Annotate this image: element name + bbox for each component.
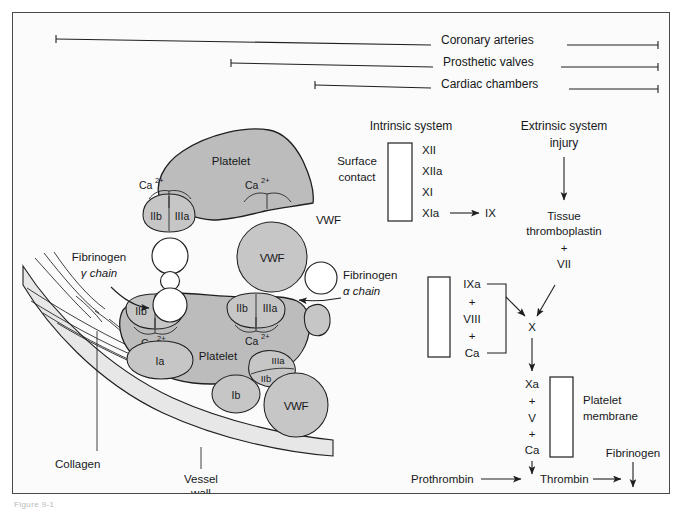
- prothrombinase-item-1: +: [529, 395, 536, 407]
- prothrombinase-item-3: +: [529, 428, 536, 440]
- tenase-membrane-box: [428, 277, 450, 357]
- tenase-item-4: Ca: [465, 347, 480, 359]
- receptor-label-IIIa: IIIa: [175, 210, 190, 222]
- svg-text:Ca: Ca: [245, 179, 259, 191]
- vwf-circle-lower: VWF: [264, 373, 328, 437]
- receptor-label-Ib: Ib: [232, 389, 241, 401]
- upper-platelet-label: Platelet: [212, 155, 251, 167]
- vwf-label: VWF: [260, 252, 285, 264]
- platelet-membrane-line1: Platelet: [583, 394, 622, 406]
- surface-contact-line1: Surface: [337, 155, 377, 167]
- figure-screenshot: Coronary arteries Prosthetic valves Card…: [0, 0, 682, 520]
- figure-caption: Figure 9-1: [14, 500, 54, 509]
- title-label-cardiac-chambers: Cardiac chambers: [315, 77, 658, 93]
- receptor-label-IIIa: IIIa: [271, 355, 285, 366]
- receptor-label-IIb: IIb: [261, 373, 272, 384]
- tenase-item-2: VIII: [463, 313, 480, 325]
- label-line1: Fibrinogen: [72, 251, 126, 263]
- intrinsic-factor-2: XI: [422, 186, 433, 198]
- vwf-pointer-label: VWF: [316, 214, 341, 226]
- vessel-wall-label: Vessel wall: [184, 447, 218, 494]
- svg-text:2+: 2+: [261, 332, 270, 341]
- intrinsic-factor-1: XIIa: [422, 165, 443, 177]
- label-line2: α chain: [343, 285, 380, 297]
- receptor-label-Ia: Ia: [156, 355, 165, 367]
- intrinsic-factor-3: XIa: [422, 207, 440, 219]
- platelet-membrane-line2: membrane: [583, 410, 638, 422]
- intrinsic-surface-box: [388, 143, 412, 221]
- surface-contact-line2: contact: [338, 171, 376, 183]
- extrinsic-plus: +: [561, 242, 568, 254]
- receptor-label-IIIa: IIIa: [263, 302, 278, 314]
- prothrombinase-item-2: V: [528, 412, 536, 424]
- title-label-prosthetic-valves: Prosthetic valves: [231, 55, 658, 71]
- prothrombinase-complex-group: Xa + V + Ca Platelet membrane: [525, 377, 638, 474]
- platelet-membrane-box: [550, 377, 573, 457]
- svg-text:Ca: Ca: [139, 179, 153, 191]
- vwf-circle-main: VWF: [237, 222, 307, 292]
- receptor-blob-right: [304, 304, 330, 335]
- extrinsic-title-line1: Extrinsic system: [521, 119, 608, 133]
- tissue-thromboplastin-line1: Tissue: [547, 210, 580, 222]
- fibrinogen-alpha-chain-bead: [305, 262, 337, 294]
- prothrombinase-item-4: Ca: [525, 444, 540, 456]
- tenase-complex-group: IXa + VIII + Ca X: [428, 277, 555, 371]
- figure-frame: Coronary arteries Prosthetic valves Card…: [12, 12, 670, 494]
- title-label-text: Prosthetic valves: [443, 55, 534, 69]
- svg-text:Ca: Ca: [245, 335, 259, 347]
- fibrinogen-gamma-chain-beads: [152, 238, 188, 322]
- title-label-text: Cardiac chambers: [441, 77, 538, 91]
- label-line2: wall: [190, 487, 211, 494]
- svg-text:VWF: VWF: [316, 214, 341, 226]
- receptor-label-IIb: IIb: [150, 210, 162, 222]
- title-label-coronary-arteries: Coronary arteries: [56, 33, 658, 49]
- tenase-item-0: IXa: [463, 278, 481, 290]
- svg-text:Collagen: Collagen: [55, 458, 100, 470]
- prothrombin-label: Prothrombin: [411, 473, 474, 485]
- intrinsic-output-IX: IX: [485, 207, 496, 219]
- factor-X-label: X: [528, 321, 536, 333]
- extrinsic-title-line2: injury: [550, 136, 579, 150]
- vwf-label: VWF: [284, 400, 309, 412]
- extrinsic-factor-VII: VII: [557, 258, 571, 270]
- extrinsic-system-group: Extrinsic system injury Tissue thrombopl…: [521, 119, 608, 270]
- svg-text:2+: 2+: [155, 176, 164, 185]
- lower-platelet-label: Platelet: [199, 350, 238, 362]
- receptor-label-IIb: IIb: [236, 302, 248, 314]
- title-label-text: Coronary arteries: [441, 33, 534, 47]
- label-line1: Vessel: [184, 473, 218, 485]
- thrombin-label: Thrombin: [540, 473, 589, 485]
- intrinsic-system-title: Intrinsic system: [370, 119, 453, 133]
- label-line2: γ chain: [81, 267, 117, 279]
- intrinsic-factor-0: XII: [422, 144, 436, 156]
- tenase-item-3: +: [469, 330, 476, 342]
- coagulation-diagram: Coronary arteries Prosthetic valves Card…: [13, 13, 670, 494]
- receptor-Ib: Ib: [212, 375, 260, 413]
- intrinsic-system-group: Intrinsic system Surface contact XII XII…: [337, 119, 496, 221]
- svg-text:2+: 2+: [261, 176, 270, 185]
- receptor-Ia: Ia: [127, 341, 193, 379]
- tissue-thromboplastin-line2: thromboplastin: [526, 225, 601, 237]
- fibrinogen-label: Fibrinogen: [606, 447, 660, 459]
- label-line1: Fibrinogen: [343, 269, 397, 281]
- prothrombinase-item-0: Xa: [525, 378, 540, 390]
- tenase-item-1: +: [469, 296, 476, 308]
